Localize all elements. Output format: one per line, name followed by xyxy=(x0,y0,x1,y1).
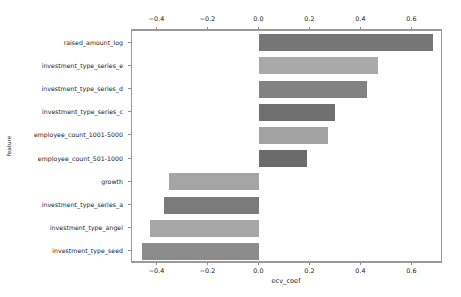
bar-investment_type_series_d xyxy=(259,81,366,98)
y-tick-label-investment_type_series_e: investment_type_series_e xyxy=(42,61,123,68)
y-tick-label-employee_count_1001-5000: employee_count_1001-5000 xyxy=(34,131,123,138)
x-tick-label: 0.6 xyxy=(406,15,416,23)
bar-employee_count_1001-5000 xyxy=(259,127,328,144)
x-tick-label: −0.2 xyxy=(200,15,216,23)
x-axis-spine xyxy=(131,262,442,263)
bar-investment_type_seed xyxy=(142,243,259,260)
x-tick-label: 0.2 xyxy=(304,267,314,275)
x-tick-label: 0.6 xyxy=(406,267,416,275)
y-tick-label-raised_amount_log: raised_amount_log xyxy=(64,38,123,45)
bar-investment_type_series_c xyxy=(259,104,334,121)
x-tick-label: −0.4 xyxy=(149,267,165,275)
bar-investment_type_series_a xyxy=(164,197,260,214)
x-tick-label: 0.2 xyxy=(304,15,314,23)
y-tick-label-investment_type_series_a: investment_type_series_a xyxy=(42,201,123,208)
y-tick-label-investment_type_series_c: investment_type_series_c xyxy=(42,108,123,115)
bar-raised_amount_log xyxy=(259,34,432,51)
y-tick-label-employee_count_501-1000: employee_count_501-1000 xyxy=(38,154,123,161)
x-tick-label: 0.0 xyxy=(253,267,263,275)
plot-area xyxy=(131,30,442,262)
chart-figure: −0.4−0.20.00.20.40.6 raised_amount_login… xyxy=(0,0,461,297)
x-tick-label: 0.0 xyxy=(253,15,263,23)
x-tick-label: 0.4 xyxy=(355,267,365,275)
bar-employee_count_501-1000 xyxy=(259,150,306,167)
x-tick-label: −0.2 xyxy=(200,267,216,275)
bar-investment_type_angel xyxy=(150,220,260,237)
bar-growth xyxy=(169,173,259,190)
y-tick-label-investment_type_series_d: investment_type_series_d xyxy=(42,85,124,92)
x-tick-label: −0.4 xyxy=(149,15,165,23)
y-axis-title: feature xyxy=(6,136,12,156)
x-axis-top: −0.4−0.20.00.20.40.6 xyxy=(0,0,461,30)
y-axis-tick-labels: raised_amount_loginvestment_type_series_… xyxy=(0,30,128,262)
x-axis-bottom: −0.4−0.20.00.20.40.6 xyxy=(0,262,461,297)
x-tick-label: 0.4 xyxy=(355,15,365,23)
y-tick-label-investment_type_seed: investment_type_seed xyxy=(52,247,123,254)
bar-investment_type_series_e xyxy=(259,57,378,74)
x-axis-title: ecv_coef xyxy=(272,277,301,285)
y-tick-label-investment_type_angel: investment_type_angel xyxy=(50,224,123,231)
y-tick-label-growth: growth xyxy=(101,177,123,184)
